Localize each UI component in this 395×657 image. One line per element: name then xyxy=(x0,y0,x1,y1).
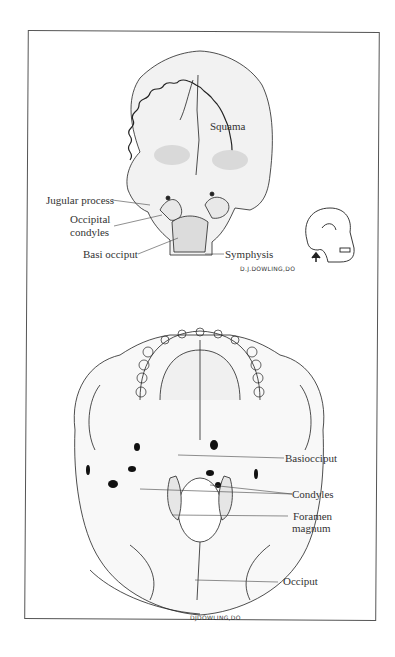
label-basi-occiput: Basi occiput xyxy=(83,248,138,260)
label-symphysis: Symphysis xyxy=(225,248,273,260)
signature-bottom: DJDOWLING,DO xyxy=(190,614,241,621)
orientation-skull-icon xyxy=(306,208,354,262)
label-condyles: Condyles xyxy=(292,488,334,500)
label-occiput: Occiput xyxy=(283,575,318,587)
label-foramen-2: magnum xyxy=(292,522,331,534)
signature-top: D.J.DOWLING,DO xyxy=(240,265,295,272)
label-basiocciput: Basiocciput xyxy=(285,452,337,464)
label-squama: Squama xyxy=(210,120,245,132)
anatomy-illustration xyxy=(0,0,395,657)
label-occipital-condyles-2: condyles xyxy=(70,226,109,238)
label-occipital-condyles-1: Occipital xyxy=(70,213,110,225)
inferior-skull-drawing xyxy=(74,328,324,615)
label-jugular-process: Jugular process xyxy=(46,194,114,206)
occipital-bone-drawing xyxy=(127,51,272,255)
label-foramen-1: Foramen xyxy=(293,510,332,522)
